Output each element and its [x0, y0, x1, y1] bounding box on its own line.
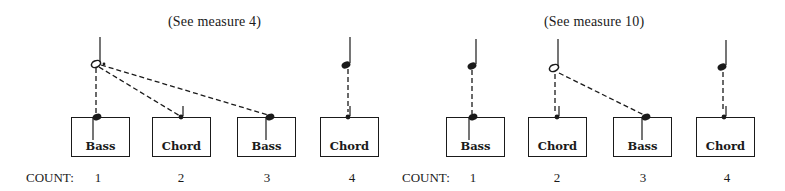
- panel-measure-10: (See measure 10) Bass Chord Bass Chord C…: [392, 0, 785, 191]
- bass-note-icon: [92, 112, 103, 140]
- quarter-note-icon: [716, 40, 727, 72]
- notation-overlay: [0, 0, 392, 191]
- quarter-note-icon: [340, 37, 351, 70]
- chord-note-icon: [722, 106, 727, 119]
- dashed-connectors: [96, 65, 348, 116]
- notation-overlay: [392, 0, 785, 191]
- dashed-connectors: [472, 70, 723, 115]
- dotted-half-note-icon: [90, 37, 105, 69]
- panel-measure-4: (See measure 4) Bass Chord Bass Chord CO…: [0, 0, 392, 191]
- half-note-icon: [548, 39, 559, 73]
- bass-note-icon: [641, 112, 652, 140]
- chord-note-icon: [179, 106, 184, 119]
- bass-note-icon: [468, 112, 479, 140]
- chord-note-icon: [346, 106, 351, 119]
- bass-note-icon: [265, 112, 276, 140]
- quarter-note-icon: [466, 39, 477, 71]
